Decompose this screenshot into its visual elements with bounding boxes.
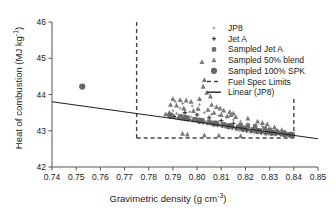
svg-text:JP8: JP8 [228,23,243,33]
x-axis-title-text: Gravimetric density (g cm [110,193,218,204]
svg-text:46: 46 [37,17,47,27]
svg-text:0.79: 0.79 [165,172,182,182]
svg-text:0.77: 0.77 [116,172,133,182]
legend-item-fuel-spec-limits: Fuel Spec Limits [207,77,291,87]
legend-item-linear-jp8-: Linear (JP8) [207,87,274,97]
svg-text:Linear (JP8): Linear (JP8) [228,87,274,97]
y-axis-title-tail: ) [13,27,24,30]
svg-text:0.84: 0.84 [286,172,303,182]
svg-text:Fuel Spec Limits: Fuel Spec Limits [228,77,291,87]
svg-text:Jet A: Jet A [228,34,247,44]
legend-item-jp8: JP8 [213,23,243,33]
svg-text:0.74: 0.74 [44,172,61,182]
svg-text:43: 43 [37,126,47,136]
linear-fit-line [52,102,318,139]
svg-text:0.82: 0.82 [237,172,254,182]
legend-item-jet-a: Jet A [212,34,247,44]
svg-text:0.83: 0.83 [261,172,278,182]
svg-text:0.85: 0.85 [310,172,327,182]
svg-text:Sampled Jet A: Sampled Jet A [228,44,283,54]
chart-figure: 0.740.750.760.770.780.790.800.810.820.83… [0,0,336,214]
svg-text:42: 42 [37,162,47,172]
svg-text:Sampled 50% blend: Sampled 50% blend [228,55,304,65]
svg-text:Sampled 100% SPK: Sampled 100% SPK [228,66,305,76]
y-axis-ticks: 4243444546 [37,17,52,172]
svg-text:0.76: 0.76 [92,172,109,182]
x-axis-ticks: 0.740.750.760.770.780.790.800.810.820.83… [44,167,327,182]
y-axis-title: Heat of combustion (MJ kg-1) [13,13,24,163]
legend-item-sampled-jet-a: Sampled Jet A [212,44,283,54]
x-axis-title: Gravimetric density (g cm-3) [0,193,336,204]
svg-text:44: 44 [37,90,47,100]
svg-text:0.80: 0.80 [189,172,206,182]
svg-text:0.81: 0.81 [213,172,230,182]
x-axis-title-tail: ) [223,193,226,204]
y-axis-title-text: Heat of combustion (MJ kg [13,36,24,149]
legend-item-sampled-100-spk: Sampled 100% SPK [211,66,305,76]
y-axis-title-exponent: -1 [12,30,19,36]
svg-text:0.75: 0.75 [68,172,85,182]
svg-text:45: 45 [37,53,47,63]
legend-item-sampled-50-blend: Sampled 50% blend [212,55,305,65]
scatter-plot-canvas: 0.740.750.760.770.780.790.800.810.820.83… [0,0,336,214]
svg-text:0.78: 0.78 [140,172,157,182]
chart-legend: JP8Jet ASampled Jet ASampled 50% blendSa… [207,23,305,97]
